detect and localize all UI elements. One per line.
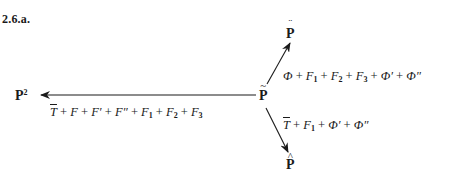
formula-term: T	[283, 118, 290, 132]
node-left-symbol: P	[15, 88, 24, 103]
plus-operator: +	[178, 105, 191, 119]
formula-term: F	[303, 118, 311, 132]
formula-term: F	[70, 105, 78, 119]
plus-operator: +	[102, 105, 115, 119]
label-to-left: T + F + F′ + F″ + F1 + F2 + F3	[50, 106, 203, 120]
formula-term: F	[141, 105, 149, 119]
plus-operator: +	[78, 105, 91, 119]
node-left-superscript: 2	[24, 88, 28, 97]
node-left: P2	[15, 89, 28, 103]
plus-operator: +	[290, 118, 303, 132]
arrows-layer	[0, 0, 454, 185]
plus-operator: +	[340, 118, 353, 132]
plus-operator: +	[128, 105, 141, 119]
label-to-top: Φ + F1 + F2 + F3 + Φ′ + Φ″	[283, 70, 421, 84]
formula-term: F′	[91, 105, 101, 119]
plus-operator: +	[153, 105, 166, 119]
formula-subscript: 3	[199, 111, 203, 120]
node-bottom: ^ P	[286, 158, 295, 172]
plus-operator: +	[393, 69, 406, 83]
formula-term: Φ′	[381, 69, 393, 83]
formula-term: T	[50, 105, 57, 119]
formula-term: F″	[115, 105, 128, 119]
formula-term: Φ	[283, 69, 293, 83]
plus-operator: +	[315, 118, 328, 132]
formula-term: F	[166, 105, 174, 119]
plus-operator: +	[342, 69, 355, 83]
formula-term: Φ″	[354, 118, 369, 132]
formula-term: Φ″	[406, 69, 421, 83]
formula-term: Φ′	[328, 118, 340, 132]
hat-accent: ^	[286, 151, 295, 162]
plus-operator: +	[317, 69, 330, 83]
double-dot-accent: ¨	[286, 18, 295, 29]
tilde-accent: ~	[259, 80, 268, 91]
node-center: ~ P	[259, 89, 268, 103]
plus-operator: +	[367, 69, 380, 83]
plus-operator: +	[57, 105, 70, 119]
node-top: ¨ P	[286, 27, 295, 41]
label-to-bottom: T + F1 + Φ′ + Φ″	[283, 119, 369, 133]
plus-operator: +	[293, 69, 306, 83]
formula-term: F	[191, 105, 199, 119]
